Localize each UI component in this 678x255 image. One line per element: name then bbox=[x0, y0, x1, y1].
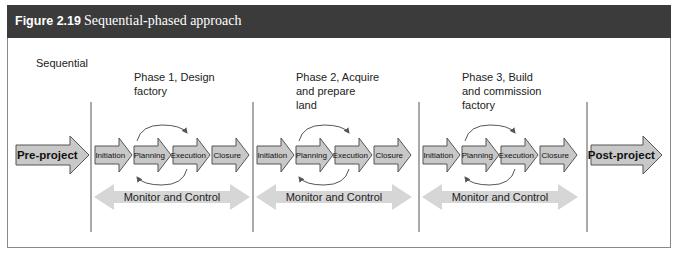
step-closure-phase-2-label: Closure bbox=[375, 151, 403, 160]
step-planning-phase-1-label: Planning bbox=[134, 151, 165, 160]
step-initiation-phase-2-label: Initiation bbox=[257, 151, 287, 160]
step-execution-phase-2-label: Execution bbox=[333, 151, 368, 160]
step-planning-phase-2: Planning bbox=[296, 138, 333, 172]
step-execution-phase-3: Execution bbox=[499, 138, 538, 172]
monitor-and-control-label: Monitor and Control bbox=[124, 191, 221, 203]
step-initiation-phase-1-label: Initiation bbox=[95, 151, 125, 160]
monitor-and-control-arrow: Monitor and Control bbox=[422, 184, 578, 210]
step-planning-phase-3-label: Planning bbox=[462, 151, 493, 160]
monitor-and-control-label: Monitor and Control bbox=[452, 191, 549, 203]
step-execution-phase-3-label: Execution bbox=[499, 151, 534, 160]
monitor-and-control-arrow: Monitor and Control bbox=[94, 184, 250, 210]
step-closure-phase-3: Closure bbox=[540, 138, 577, 172]
monitor-and-control-arrow: Monitor and Control bbox=[256, 184, 412, 210]
step-planning-phase-3: Planning bbox=[462, 138, 499, 172]
pre-project-arrow-label: Pre-project bbox=[17, 149, 78, 161]
monitor-and-control-label: Monitor and Control bbox=[286, 191, 383, 203]
post-project-arrow: Post-project bbox=[588, 136, 662, 174]
step-closure-phase-3-label: Closure bbox=[541, 151, 569, 160]
step-closure-phase-1-label: Closure bbox=[213, 151, 241, 160]
pre-project-arrow: Pre-project bbox=[16, 136, 89, 174]
step-execution-phase-1-label: Execution bbox=[171, 151, 206, 160]
step-closure-phase-2: Closure bbox=[374, 138, 411, 172]
step-execution-phase-2: Execution bbox=[333, 138, 372, 172]
post-project-arrow-label: Post-project bbox=[588, 149, 655, 161]
step-closure-phase-1: Closure bbox=[212, 138, 249, 172]
step-execution-phase-1: Execution bbox=[171, 138, 210, 172]
step-initiation-phase-2: Initiation bbox=[257, 138, 294, 172]
step-initiation-phase-1: Initiation bbox=[95, 138, 132, 172]
step-planning-phase-2-label: Planning bbox=[296, 151, 327, 160]
step-initiation-phase-3: Initiation bbox=[423, 138, 460, 172]
step-planning-phase-1: Planning bbox=[134, 138, 171, 172]
step-initiation-phase-3-label: Initiation bbox=[423, 151, 453, 160]
diagram-canvas: Pre-projectPost-projectInitiationPlannin… bbox=[0, 0, 678, 255]
